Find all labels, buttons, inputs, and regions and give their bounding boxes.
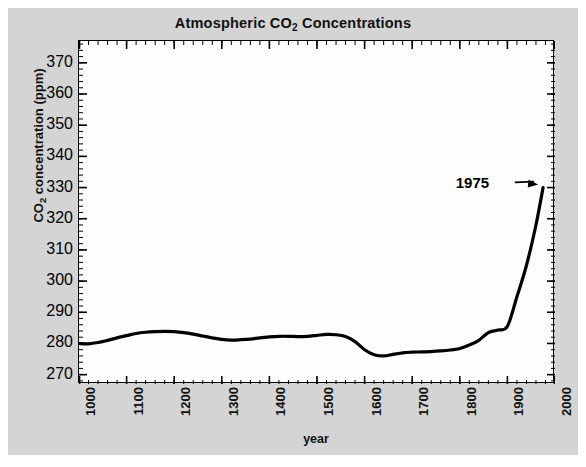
y-tick-label: 320: [46, 209, 73, 227]
y-axis-tick-labels: 270280290300310320330340350360370: [24, 40, 73, 383]
y-tick-label: 370: [46, 53, 73, 71]
annotation-1975-label: 1975: [456, 174, 489, 191]
chart-title-prefix: Atmospheric CO: [175, 15, 292, 31]
annotation-arrow-1975: [515, 180, 538, 188]
x-tick-label: 1400: [273, 387, 288, 416]
co2-concentration-line: [79, 188, 543, 356]
x-tick-label: 1700: [416, 387, 431, 416]
plot-area: 1975: [78, 40, 554, 383]
x-tick-label: 1800: [464, 387, 479, 416]
x-tick-label: 1500: [321, 387, 336, 416]
y-tick-label: 350: [46, 115, 73, 133]
x-tick-label: 1600: [369, 387, 384, 416]
plot-svg: [79, 41, 555, 384]
y-tick-label: 330: [46, 178, 73, 196]
y-tick-label: 360: [46, 84, 73, 102]
x-tick-label: 1100: [131, 387, 146, 415]
chart-title-subscript: 2: [292, 22, 298, 33]
x-tick-label: 1000: [83, 387, 98, 416]
chart-title-suffix: Concentrations: [298, 15, 411, 31]
x-tick-label: 1300: [226, 387, 241, 416]
chart-figure: Atmospheric CO2 Concentrations CO2 conce…: [8, 8, 578, 455]
y-tick-label: 340: [46, 146, 73, 164]
x-axis-label: year: [78, 432, 554, 446]
y-tick-label: 290: [46, 302, 73, 320]
x-tick-label: 2000: [559, 387, 574, 416]
y-tick-label: 280: [46, 333, 73, 351]
chart-title: Atmospheric CO2 Concentrations: [8, 15, 578, 31]
y-tick-label: 270: [46, 365, 73, 383]
y-tick-label: 300: [46, 271, 73, 289]
y-tick-label: 310: [46, 240, 73, 258]
x-tick-label: 1900: [511, 387, 526, 416]
x-tick-label: 1200: [178, 387, 193, 416]
